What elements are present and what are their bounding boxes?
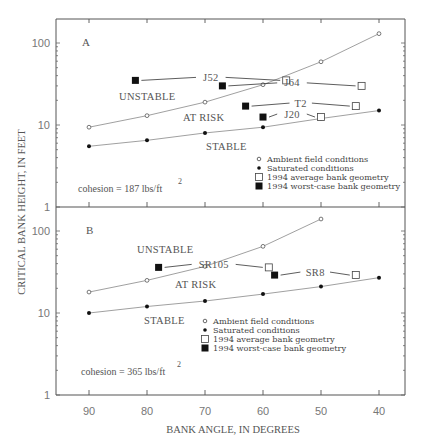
region-at-risk-a: AT RISK [183, 112, 224, 123]
region-stable-a: STABLE [206, 141, 247, 152]
site-connector [228, 83, 277, 86]
open-square-icon [202, 336, 209, 343]
filled-square-icon [256, 183, 263, 190]
x-tick-70: 70 [199, 405, 211, 417]
open-circle-marker [87, 125, 91, 129]
site-connector [236, 264, 263, 267]
site-connector [307, 83, 356, 86]
filled-circle-marker [261, 125, 265, 129]
cohesion-exponent-b: 2 [177, 360, 181, 369]
x-axis-labels: 90 80 70 60 50 40 [83, 405, 385, 417]
site-connector [269, 114, 277, 117]
open-circle-marker [87, 290, 91, 294]
y-tick-1-b: 1 [44, 389, 50, 401]
site-label-sr8: SR8 [306, 267, 325, 278]
filled-circle-marker [203, 131, 207, 135]
filled-circle-marker [203, 299, 207, 303]
site-connector [307, 114, 315, 117]
site-connector [226, 77, 281, 80]
worst-case-marker [271, 272, 278, 279]
site-connector [281, 272, 301, 275]
worst-case-marker [132, 77, 139, 84]
site-connector [312, 103, 350, 106]
x-tick-90: 90 [83, 405, 95, 417]
filled-circle-icon [203, 328, 207, 332]
open-circle-marker [319, 60, 323, 64]
legend-a-worst-case: 1994 worst-case bank geometry [267, 181, 400, 191]
open-circle-marker [261, 244, 265, 248]
open-circle-marker [145, 114, 149, 118]
legend-b-worst-case: 1994 worst-case bank geometry [213, 343, 346, 353]
y-tick-10-b: 10 [38, 307, 50, 319]
open-circle-marker [203, 100, 207, 104]
y-tick-100-a: 100 [32, 37, 50, 49]
site-connector [165, 264, 192, 267]
panel-b-sites: SR105SR8 [155, 259, 359, 279]
filled-circle-marker [87, 311, 91, 315]
site-connector [252, 103, 290, 106]
y-tick-10-a: 10 [38, 119, 50, 131]
site-label-j64: J64 [284, 77, 300, 88]
panel-label-b: B [86, 224, 93, 236]
region-unstable-b: UNSTABLE [137, 244, 193, 255]
critical-bank-height-figure: 100 10 1 100 10 1 90 80 70 60 50 40 BANK… [0, 0, 428, 442]
region-unstable-a: UNSTABLE [119, 91, 175, 102]
filled-square-icon [202, 345, 209, 352]
cohesion-label-a: cohesion = 187 lbs/ft [78, 183, 162, 194]
site-label-j52: J52 [203, 72, 219, 83]
filled-circle-marker [87, 144, 91, 148]
panel-b-series [87, 217, 381, 315]
y-tick-100-b: 100 [32, 225, 50, 237]
average-marker [352, 272, 359, 279]
average-marker [265, 264, 272, 271]
filled-circle-marker [145, 305, 149, 309]
panel-b: B SR105SR8 UNSTABLE AT RISK STABLE cohes… [81, 217, 381, 377]
average-marker [358, 82, 365, 89]
y-axis-labels: 100 10 1 100 10 1 [32, 37, 50, 401]
open-circle-icon [203, 319, 207, 323]
open-square-icon [256, 174, 263, 181]
panel-a: A J52J64T2J20 UNSTABLE AT RISK STABLE co… [78, 32, 400, 194]
average-marker [352, 103, 359, 110]
open-circle-marker [319, 217, 323, 221]
x-tick-50: 50 [315, 405, 327, 417]
cohesion-exponent-a: 2 [178, 177, 182, 186]
x-axis-title: BANK ANGLE, IN DEGREES [166, 424, 300, 435]
open-circle-icon [257, 157, 261, 161]
open-circle-marker [377, 32, 381, 36]
worst-case-marker [260, 114, 267, 121]
panel-label-a: A [82, 36, 90, 48]
filled-circle-marker [319, 285, 323, 289]
x-tick-40: 40 [373, 405, 385, 417]
filled-circle-marker [261, 292, 265, 296]
filled-circle-marker [145, 138, 149, 142]
cohesion-label-b: cohesion = 365 lbs/ft [81, 366, 165, 377]
site-label-sr105: SR105 [199, 259, 229, 270]
x-tick-80: 80 [141, 405, 153, 417]
legend-a: Ambient field conditions Saturated condi… [256, 154, 401, 191]
open-circle-marker [145, 278, 149, 282]
region-at-risk-b: AT RISK [175, 279, 216, 290]
site-connector [330, 272, 350, 275]
filled-circle-icon [257, 166, 261, 170]
site-connector [141, 77, 196, 80]
worst-case-marker [155, 264, 162, 271]
legend-b: Ambient field conditions Saturated condi… [202, 316, 347, 353]
site-label-t2: T2 [295, 98, 307, 109]
y-axis-title: CRITICAL BANK HEIGHT, IN FEET [16, 129, 27, 295]
filled-circle-marker [377, 109, 381, 113]
worst-case-marker [219, 82, 226, 89]
average-marker [318, 114, 325, 121]
site-label-j20: J20 [284, 109, 300, 120]
filled-circle-marker [377, 276, 381, 280]
y-tick-1-a: 1 [44, 201, 50, 213]
worst-case-marker [242, 103, 249, 110]
x-tick-60: 60 [257, 405, 269, 417]
region-stable-b: STABLE [144, 315, 185, 326]
